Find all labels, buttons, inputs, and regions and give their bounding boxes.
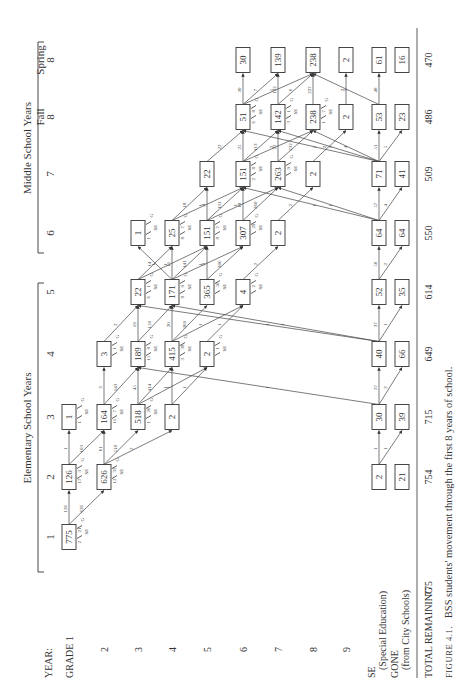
box-count: 16 [397,55,407,65]
exit-g-count: 21 [77,527,82,533]
flow-count: 22 [272,144,277,150]
box-count: 365 [202,285,212,299]
exit-g-label: G [115,398,120,402]
count-box-f8-g6: 51 [236,105,250,130]
flow-count: 2 [288,203,293,206]
exit-g-count: 1 [215,347,220,350]
box-count: 2 [167,415,177,420]
flow-arrow: 626 [69,491,104,525]
exit-se-label: SE [84,529,89,535]
flow-count: 306 [217,260,222,268]
box-count: 21 [397,473,407,482]
count-box-y7-g7: 263 [271,162,285,187]
count-box-y3-gone: 39 [395,405,409,430]
count-box-y2-g2: 626 [97,465,111,490]
flow-arrow: 1 [207,306,243,342]
exit-se-label: SE [293,166,298,172]
exit-g-label: G [289,155,294,159]
year-header-y7: 7 [44,171,56,177]
exit-g-count: 1 [146,285,151,288]
figure-stage: Elementary School Years Middle School Ye… [0,0,458,688]
count-box-f8-g8: 238 [306,105,320,130]
count-box-s8-g6: 30 [236,48,250,73]
count-box-y6-se: 64 [372,221,386,246]
flow-count: 1 [265,386,270,389]
count-box-y3-se: 30 [372,405,386,430]
exit-marker: G7SE11 [112,398,124,424]
box-count: 189 [133,347,143,361]
exit-g-count: 8 [251,110,256,113]
flow-count: 18 [237,202,242,208]
exit-se-label: SE [187,284,192,290]
exit-se-count: 1 [146,421,151,424]
year-header-y1: 1 [44,534,56,540]
count-box-y4-g4: 415 [165,342,179,367]
box-count: 2 [341,58,351,63]
flow-arrow: 1 [63,431,69,465]
exit-g-label: G [80,458,85,462]
flow-arrow: 30 [237,74,243,105]
box-count: 22 [133,288,143,297]
count-box-y6-g3: 1 [131,221,145,246]
exit-se-label: SE [293,109,298,115]
exit-se-label: SE [187,346,192,352]
exit-g-count: 7 [180,226,185,229]
row-label-g9: 9 [341,647,352,652]
flow-arrow: 260 [243,188,278,221]
exit-g-count: 2 [251,285,256,288]
exit-se-label: SE [328,109,333,115]
flow-count: 50 [373,261,378,267]
flow-count: 45 [132,384,137,390]
count-box-y6-g6: 307 [236,221,250,246]
totals-row: 775754715649614550509486470 [423,53,434,597]
box-count: 30 [374,412,384,422]
count-box-y7-gone: 41 [395,162,409,187]
exit-se-count: 1 [77,421,82,424]
flow-count: 25 [237,144,242,150]
exit-marker: G2SE [251,273,263,294]
exit-marker: G7SE8 [215,214,227,240]
exit-g-count: 7 [215,226,220,229]
flow-arrow: 1 [243,188,379,221]
caption-text: BSS students' movement through the first… [443,367,454,619]
box-count: 139 [273,53,283,67]
flow-arrow: 306 [207,247,243,280]
box-count: 30 [238,55,248,65]
box-count: 2 [341,115,351,120]
flow-count: 2 [253,262,258,265]
count-boxes: 7751266262211164518230393189415240662217… [62,48,409,550]
exit-se-count: 15 [146,355,151,361]
flow-count: 1 [328,145,333,148]
year-number: 8 [44,57,56,63]
box-count: 126 [64,470,74,484]
flow-count: 132 [272,86,277,94]
year-label: YEAR: [43,648,54,678]
count-box-y4-gone: 66 [395,342,409,367]
row-label-text: 7 [273,647,284,652]
flow-count: 360 [182,321,187,329]
total-value: 754 [423,470,434,485]
count-box-y7-g5: 22 [200,162,214,187]
flow-count: 48 [373,87,378,93]
flow-count: 1 [198,323,203,326]
box-count: 61 [374,56,384,65]
count-box-y5-gone: 35 [395,280,409,305]
flow-count: 1 [312,145,317,148]
total-value: 550 [423,226,434,241]
grade-row-labels: GRADE 123456789SE(Special Education)GONE… [64,590,412,678]
box-count: 2 [202,352,212,357]
row-label-g5: 5 [202,647,213,652]
box-count: 53 [374,112,384,122]
flow-count: 2 [383,262,388,265]
exit-marker: G1SE3 [286,98,298,124]
flow-arrow: 50 [373,247,379,280]
flow-arrow: 232 [278,131,313,162]
year-header-y6: 6 [44,230,56,236]
box-count: 2 [308,172,318,177]
box-count: 263 [273,167,283,181]
row-sublabel-text: (Special Education) [377,591,389,670]
box-count: 1 [64,415,74,420]
count-box-y5-g4: 171 [165,280,179,305]
flow-count: 113 [253,143,258,151]
box-count: 35 [397,287,407,297]
